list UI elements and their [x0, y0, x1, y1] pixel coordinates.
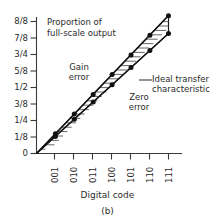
x-tick-label-101: 101 [127, 167, 136, 183]
y-axis-title-line1: Proportion of [47, 17, 116, 28]
ideal-transfer-line1: Ideal transfer [152, 74, 210, 84]
y-tick-label-5-8: 5/8 [0, 67, 28, 76]
x-axis-ticks [55, 154, 169, 160]
y-tick-label-1-8: 1/8 [0, 133, 28, 142]
gain-error-annotation: Gain error [62, 62, 96, 82]
x-tick-label-111: 111 [165, 167, 174, 183]
ideal-transfer-line2: characteristic [152, 84, 210, 94]
gain-error-line1: Gain [62, 62, 96, 72]
zero-error-annotation: Zero error [122, 92, 156, 112]
x-tick-label-001: 001 [51, 167, 60, 183]
figure-caption: (b) [0, 206, 215, 216]
y-tick-label-3-8: 3/8 [0, 100, 28, 109]
ideal-transfer-annotation: Ideal transfer characteristic [152, 74, 210, 94]
y-tick-label-1-4: 1/4 [0, 116, 28, 125]
y-tick-label-8-8: 8/8 [0, 17, 28, 26]
x-tick-label-110: 110 [146, 167, 155, 183]
x-tick-label-010: 010 [70, 167, 79, 183]
zero-error-line2: error [122, 102, 156, 112]
x-tick-label-100: 100 [108, 167, 117, 183]
y-tick-label-0: 0 [0, 149, 28, 158]
y-axis-ticks [31, 22, 37, 154]
zero-error-line1: Zero [122, 92, 156, 102]
y-tick-label-3-4: 3/4 [0, 50, 28, 59]
x-axis-title: Digital code [0, 190, 215, 200]
gain-error-line2: error [62, 72, 96, 82]
figure-container: 8/8 7/8 3/4 5/8 1/2 3/8 1/4 1/8 0 001 01… [0, 0, 215, 221]
y-axis-title-line2: full-scale output [47, 28, 116, 39]
y-axis-title: Proportion of full-scale output [47, 17, 116, 38]
y-tick-label-1-2: 1/2 [0, 83, 28, 92]
y-tick-label-7-8: 7/8 [0, 34, 28, 43]
x-tick-label-011: 011 [89, 167, 98, 183]
